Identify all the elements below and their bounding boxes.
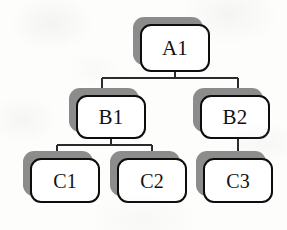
node-c1[interactable]: C1 [23, 151, 93, 196]
node-b2[interactable]: B2 [193, 88, 263, 132]
node-box: C1 [30, 158, 100, 203]
node-label: C1 [53, 171, 77, 191]
node-label: B1 [99, 107, 124, 128]
node-box: C2 [117, 158, 187, 203]
node-box: A1 [140, 24, 210, 72]
diagram-canvas: A1 B1 B2 C1 C2 C3 [0, 0, 287, 230]
node-label: A1 [162, 38, 188, 59]
node-box: B1 [76, 95, 146, 139]
node-box: B2 [200, 95, 270, 139]
node-label: B2 [223, 107, 248, 128]
node-c2[interactable]: C2 [110, 151, 180, 196]
node-a1[interactable]: A1 [133, 17, 203, 65]
node-label: C3 [226, 171, 250, 191]
node-box: C3 [203, 158, 273, 203]
node-label: C2 [140, 171, 164, 191]
node-c3[interactable]: C3 [196, 151, 266, 196]
node-b1[interactable]: B1 [69, 88, 139, 132]
